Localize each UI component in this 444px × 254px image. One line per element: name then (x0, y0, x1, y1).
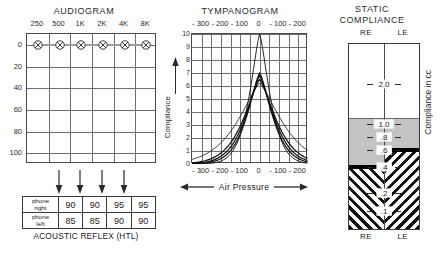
audiogram-gridline-vertical (114, 34, 115, 162)
reflex-right-1k: 90 (83, 197, 107, 213)
static-compliance-chart: 2.01.0.8.6.4.2.1 (348, 43, 420, 230)
static-title-line1: STATIC (320, 4, 424, 15)
audiogram-gridline-horizontal (27, 110, 155, 111)
static-compliance-tick (367, 137, 373, 138)
static-compliance-tick (367, 150, 373, 151)
audiogram-frequency-label-500: 500 (52, 19, 65, 28)
tympanogram-compliance-label-4: 4 (186, 108, 190, 115)
static-footer-re: RE (360, 232, 372, 241)
static-footer-le: LE (397, 232, 408, 241)
reflex-left-1k: 85 (83, 213, 107, 229)
static-compliance-tick (367, 193, 373, 194)
up-arrow-icon (171, 54, 180, 146)
tympanogram-pressure-label-top-2: - 100 (231, 19, 248, 28)
static-compliance-tick (395, 137, 401, 138)
static-compliance-tick (367, 124, 373, 125)
tympanogram-pressure-label-bottom-1: - 200 (211, 166, 228, 175)
audiogram-frequency-axis: 2505001K2K4K8K (22, 19, 156, 30)
audiogram-db-axis: 020406080100 (0, 33, 22, 163)
audiogram-db-label-60: 60 (14, 104, 22, 113)
tympanogram-compliance-label-5: 5 (186, 95, 190, 102)
static-compliance-scale-label-.1: .1 (377, 206, 392, 215)
audiogram-db-label-0: 0 (18, 39, 22, 48)
static-compliance-hatch-re (349, 167, 384, 229)
tympanogram-pressure-label-top-3: 0 (257, 19, 261, 28)
tympanogram-pressure-label-bottom-5: - 200 (289, 166, 306, 175)
tympanogram-pressure-label-bottom-2: - 100 (231, 166, 248, 175)
static-compliance-scale-label-.2: .2 (377, 188, 392, 197)
static-compliance-tick (367, 84, 373, 85)
table-row: phone left 85 85 90 90 (23, 213, 156, 229)
reflex-left-2k: 90 (107, 213, 131, 229)
tympanogram-compliance-label-1: 1 (186, 147, 190, 154)
static-header-le: LE (397, 28, 408, 37)
reflex-right-2k: 95 (107, 197, 131, 213)
static-compliance-header: RE LE (348, 28, 420, 40)
reflex-left-500: 85 (58, 213, 82, 229)
acoustic-reflex-table: phone right 90 90 95 95 phone left 85 85… (22, 196, 156, 229)
audiogram-db-label-80: 80 (14, 126, 22, 135)
static-compliance-scale-label-1.0: 1.0 (374, 120, 393, 129)
reflex-label-right-line2: right (23, 205, 58, 212)
static-compliance-title: STATIC COMPLIANCE (320, 4, 424, 26)
static-header-re: RE (360, 28, 372, 37)
table-row: phone right 90 90 95 95 (23, 197, 156, 213)
static-compliance-panel: STATIC COMPLIANCE RE LE 2.01.0.8.6.4.2.1… (320, 0, 444, 254)
audiogram-frequency-label-250: 250 (31, 19, 44, 28)
static-compliance-tick (395, 193, 401, 194)
audiogram-symbol-1K (76, 39, 87, 50)
static-compliance-tick (395, 167, 401, 168)
static-compliance-footer: RE LE (348, 232, 420, 244)
audiogram-panel: AUDIOGRAM 2505001K2K4K8K 020406080100 ph… (0, 0, 160, 254)
reflex-row-label-left: phone left (23, 213, 59, 229)
tympanogram-compliance-label-10: 10 (182, 30, 190, 37)
reflex-right-500: 90 (58, 197, 82, 213)
reflex-column-arrow (119, 170, 128, 194)
audiogram-gridline-horizontal (27, 153, 155, 154)
reflex-label-left-line2: left (23, 221, 58, 228)
reflex-right-4k: 95 (131, 197, 155, 213)
tympanogram-pressure-label-bottom-3: 0 (257, 166, 261, 175)
tympanogram-title: TYMPANOGRAM (170, 6, 310, 16)
tympanogram-compliance-label-6: 6 (186, 82, 190, 89)
static-compliance-tick (367, 211, 373, 212)
static-compliance-tick (395, 84, 401, 85)
audiogram-symbol-250 (32, 39, 43, 50)
audiogram-grid (26, 33, 156, 163)
reflex-column-arrow (54, 170, 63, 194)
audiogram-title: AUDIOGRAM (14, 6, 154, 16)
audiogram-gridline-horizontal (27, 67, 155, 68)
tympanogram-panel: TYMPANOGRAM - 300- 200- 1000- 100- 200 1… (160, 0, 320, 254)
reflex-left-4k: 90 (131, 213, 155, 229)
audiogram-symbol-4K (119, 39, 130, 50)
tympanogram-top-pressure-axis: - 300- 200- 1000- 100- 200 (160, 19, 320, 30)
audiogram-frequency-label-8K: 8K (141, 19, 150, 28)
audiogram-gridline-horizontal (27, 132, 155, 133)
static-compliance-scale-label-.4: .4 (377, 163, 392, 172)
audiogram-frequency-label-1K: 1K (76, 19, 85, 28)
audiogram-db-label-40: 40 (14, 83, 22, 92)
tympanogram-compliance-label-2: 2 (186, 134, 190, 141)
tympanogram-pressure-label-top-5: - 200 (289, 19, 306, 28)
tympanogram-pressure-label-bottom-0: - 300 (192, 166, 209, 175)
acoustic-reflex-caption: ACOUSTIC REFLEX (HTL) (6, 231, 166, 241)
static-compliance-y-axis-label-group: Compliance in cc (423, 70, 433, 137)
audiogram-gridline-vertical (70, 34, 71, 162)
audiogram-frequency-label-2K: 2K (97, 19, 106, 28)
tympanogram-compliance-label-3: 3 (186, 121, 190, 128)
audiogram-gridline-vertical (92, 34, 93, 162)
static-compliance-tick (395, 211, 401, 212)
audiogram-db-label-100: 100 (9, 148, 22, 157)
audiogram-symbol-500 (54, 39, 65, 50)
tympanogram-y-axis-label-group: Compliance (162, 58, 172, 140)
static-compliance-tick (395, 150, 401, 151)
static-compliance-scale-label-.6: .6 (377, 146, 392, 155)
static-compliance-tick (367, 167, 373, 168)
tympanogram-pressure-label-top-4: - 100 (269, 19, 286, 28)
static-compliance-tick (395, 124, 401, 125)
audiogram-frequency-label-4K: 4K (119, 19, 128, 28)
tympanogram-pressure-label-bottom-4: - 100 (269, 166, 286, 175)
reflex-row-label-right: phone right (23, 197, 59, 213)
tympanogram-compliance-label-8: 8 (186, 56, 190, 63)
static-compliance-scale-label-2.0: 2.0 (374, 79, 393, 88)
